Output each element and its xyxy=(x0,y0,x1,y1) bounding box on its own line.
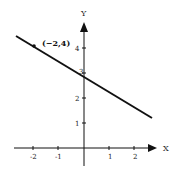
y-axis-label: Y xyxy=(80,9,87,18)
x-tick-label: -2 xyxy=(30,153,37,161)
coordinate-plot: -2 -1 1 2 1 2 3 4 X Y (−2,4) xyxy=(0,0,177,172)
x-tick-label: 1 xyxy=(108,153,112,161)
point-label: (−2,4) xyxy=(42,38,70,48)
x-axis-arrow-icon xyxy=(148,144,157,152)
y-tick-label: 4 xyxy=(75,45,80,53)
data-point xyxy=(32,44,36,48)
x-axis-label: X xyxy=(163,144,169,153)
y-tick-label: 1 xyxy=(75,120,79,128)
y-tick-label: 2 xyxy=(75,95,79,103)
y-axis-arrow-icon xyxy=(80,22,88,32)
x-tick-label: 2 xyxy=(133,153,137,161)
x-tick-label: -1 xyxy=(55,153,62,161)
